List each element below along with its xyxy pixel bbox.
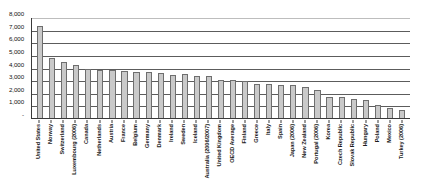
x-tick-label: Japan (2006) [290,124,296,157]
bar-slot [372,18,384,118]
bars-container [32,18,410,118]
x-tick-mark [123,120,124,123]
x-tick-label: Switzerland [60,124,66,155]
y-tick-label: 6,000 [9,36,24,42]
bar[interactable] [363,100,369,118]
x-axis-slot: Italy [263,120,275,194]
x-tick-label: United Kingdom [218,124,224,167]
x-tick-mark [51,120,52,123]
bar-slot [239,18,251,118]
bar[interactable] [230,80,236,118]
bar[interactable] [109,70,115,118]
x-tick-label: Finland [242,124,248,144]
x-axis-slot: Spain [275,120,287,194]
x-tick-mark [111,120,112,123]
bar[interactable] [61,62,67,118]
bar[interactable] [375,105,381,119]
x-axis-slot: Japan (2006) [287,120,299,194]
x-tick-mark [159,120,160,123]
bar-slot [251,18,263,118]
bar[interactable] [170,75,176,118]
bar[interactable] [73,65,79,118]
bar-slot [131,18,143,118]
bar-slot [167,18,179,118]
x-axis-slot: Norway [45,120,57,194]
bar-slot [215,18,227,118]
x-axis-slot: Canada [81,120,93,194]
x-axis-slot: Sweden [178,120,190,194]
x-tick-mark [75,120,76,123]
bar[interactable] [97,70,103,118]
bar[interactable] [49,58,55,118]
bar[interactable] [314,90,320,118]
x-tick-mark [39,120,40,123]
x-tick-label: Austria [109,124,115,143]
x-axis-slot: OECD Average [227,120,239,194]
x-tick-mark [220,120,221,123]
bar-slot [203,18,215,118]
x-tick-label: Poland [375,124,381,142]
bar[interactable] [206,76,212,118]
bar-slot [94,18,106,118]
bar[interactable] [242,81,248,118]
bar-slot [143,18,155,118]
x-tick-mark [196,120,197,123]
bar[interactable] [133,72,139,118]
bar[interactable] [85,69,91,118]
x-axis-slot: Greece [251,120,263,194]
bar[interactable] [399,110,405,118]
x-tick-label: Belgium [133,124,139,146]
bar-slot [360,18,372,118]
x-tick-label: Slovak Republic [351,124,357,166]
x-tick-mark [135,120,136,123]
x-axis-slot: Denmark [154,120,166,194]
bar[interactable] [339,97,345,118]
x-tick-label: Germany [145,124,151,148]
x-tick-mark [172,120,173,123]
bar[interactable] [290,85,296,118]
y-tick-label: 2,000 [9,87,24,93]
bar[interactable] [254,84,260,118]
bar[interactable] [278,85,284,118]
x-tick-mark [377,120,378,123]
bar[interactable] [182,74,188,118]
x-axis-slot: Hungary [360,120,372,194]
x-axis-slot: Korea [323,120,335,194]
bar-slot [263,18,275,118]
x-axis-slot: Belgium [130,120,142,194]
bar[interactable] [194,76,200,118]
x-tick-mark [256,120,257,123]
bar-slot [324,18,336,118]
bar-slot [179,18,191,118]
y-tick-label: 5,000 [9,49,24,55]
y-tick-label: - [22,112,24,118]
x-tick-mark [353,120,354,123]
x-tick-mark [268,120,269,123]
x-tick-mark [208,120,209,123]
x-tick-label: United States [36,124,42,159]
bar-slot [227,18,239,118]
bar-slot [287,18,299,118]
bar[interactable] [37,26,43,118]
x-tick-label: Ireland [169,124,175,142]
bar[interactable] [218,80,224,118]
bar[interactable] [146,72,152,118]
bar-slot [70,18,82,118]
bar-slot [348,18,360,118]
bar-slot [311,18,323,118]
x-tick-label: Sweden [181,124,187,145]
bar[interactable] [158,73,164,118]
bar[interactable] [266,84,272,118]
bar[interactable] [326,97,332,118]
y-tick-label: 4,000 [9,61,24,67]
y-tick-label: 3,000 [9,74,24,80]
x-axis-slot: New Zealand [299,120,311,194]
bar[interactable] [351,99,357,118]
x-tick-label: Luxembourg (2006) [73,124,79,175]
bar-chart: -1,0002,0003,0004,0005,0006,0007,0008,00… [0,0,422,196]
bar-slot [396,18,408,118]
bar[interactable] [387,108,393,118]
bar-slot [46,18,58,118]
bar[interactable] [121,71,127,118]
bar[interactable] [302,87,308,118]
